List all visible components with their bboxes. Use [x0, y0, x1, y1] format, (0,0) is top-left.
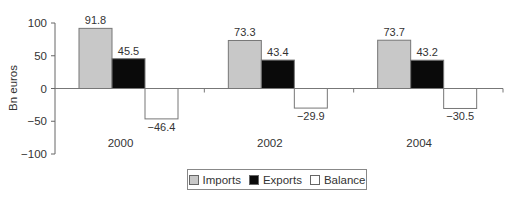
legend-swatch-exports: [249, 175, 259, 185]
legend-swatch-imports: [189, 175, 199, 185]
bar-balance-2004: [444, 89, 477, 109]
bar-exports-2004: [411, 60, 444, 88]
data-label: −29.9: [297, 110, 325, 122]
x-category-label: 2004: [406, 137, 432, 149]
data-label: 73.7: [383, 26, 404, 38]
bar-imports-2002: [228, 40, 261, 88]
x-category-label: 2000: [108, 137, 134, 149]
bars: 91.845.5−46.473.343.4−29.973.743.2−30.5: [79, 14, 477, 133]
bar-balance-2002: [294, 89, 327, 109]
legend-item-exports: Exports: [249, 174, 302, 186]
data-label: 73.3: [234, 26, 255, 38]
data-label: −46.4: [148, 121, 176, 133]
bar-imports-2000: [79, 28, 112, 88]
legend-swatch-balance: [310, 175, 320, 185]
data-label: 91.8: [85, 14, 106, 26]
legend-item-balance: Balance: [310, 174, 366, 186]
bar-balance-2000: [145, 89, 178, 119]
legend-item-imports: Imports: [189, 174, 241, 186]
y-axis-label: Bn euros: [7, 65, 19, 111]
x-category-label: 2002: [257, 137, 283, 149]
bar-imports-2004: [378, 40, 411, 88]
y-tick-label: −50: [27, 115, 47, 127]
y-tick-label: 0: [41, 83, 47, 95]
y-tick-label: −100: [21, 148, 47, 160]
legend-label-balance: Balance: [324, 174, 366, 186]
bar-exports-2000: [112, 59, 145, 89]
legend: Imports Exports Balance: [187, 169, 367, 190]
bar-chart: 100500−50−100200020022004 91.845.5−46.47…: [0, 0, 517, 165]
bar-exports-2002: [261, 60, 294, 88]
data-label: 43.4: [267, 46, 288, 58]
legend-label-imports: Imports: [203, 174, 241, 186]
legend-label-exports: Exports: [263, 174, 302, 186]
data-label: 43.2: [416, 46, 437, 58]
data-label: 45.5: [118, 45, 139, 57]
y-tick-label: 50: [34, 50, 47, 62]
data-label: −30.5: [446, 110, 474, 122]
y-tick-label: 100: [28, 17, 47, 29]
